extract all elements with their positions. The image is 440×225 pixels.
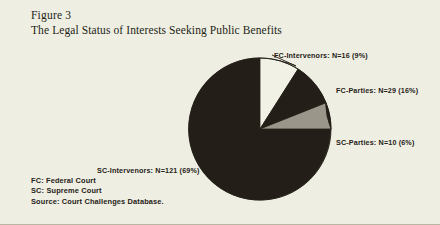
figure-panel: Figure 3 The Legal Status of Interests S… — [0, 0, 440, 225]
pie-label-fc-intervenors: FC-Intervenors: N=16 (9%) — [274, 51, 368, 60]
footnote-line-fc: FC: Federal Court — [31, 176, 164, 186]
footnote-line-source: Source: Court Challenges Database. — [31, 197, 164, 207]
pie-label-fc-parties: FC-Parties: N=29 (16%) — [336, 86, 418, 95]
pie-label-sc-intervenors: SC-Intervenors: N=121 (69%) — [97, 166, 200, 175]
figure-footnote: FC: Federal Court SC: Supreme Court Sour… — [31, 176, 164, 207]
footnote-line-sc: SC: Supreme Court — [31, 186, 164, 196]
pie-label-sc-parties: SC-Parties: N=10 (6%) — [336, 138, 414, 147]
